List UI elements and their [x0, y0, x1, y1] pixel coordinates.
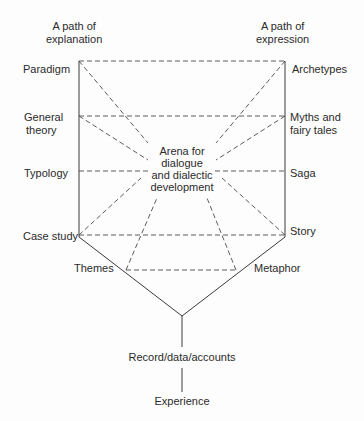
- label-case-study: Case study: [23, 230, 78, 243]
- label-typology: Typology: [24, 167, 68, 180]
- story-arena-link: [222, 178, 285, 235]
- casestudy-arena-link: [79, 178, 141, 235]
- label-metaphor: Metaphor: [254, 262, 300, 275]
- label-archetypes: Archetypes: [292, 63, 347, 76]
- arena-line-2: dialogue: [142, 157, 222, 169]
- right-header-line-2: expression: [256, 33, 309, 46]
- label-myths-fairy-tales: Myths and fairy tales: [290, 111, 341, 137]
- themes-arena-link: [126, 198, 157, 270]
- arena-line-4: development: [142, 181, 222, 193]
- label-saga: Saga: [290, 167, 316, 180]
- left-funnel-line: [79, 237, 182, 316]
- label-experience: Experience: [132, 395, 232, 408]
- label-story: Story: [290, 225, 316, 238]
- arena-label: Arena for dialogue and dialectic develop…: [142, 145, 222, 193]
- left-header-line-1: A path of: [46, 20, 102, 33]
- myths-line-1: Myths and: [290, 111, 341, 124]
- left-path-header: A path of explanation: [46, 20, 102, 46]
- label-record-data-accounts: Record/data/accounts: [122, 351, 242, 364]
- paradigm-arena-link: [79, 61, 148, 143]
- right-header-line-1: A path of: [256, 20, 309, 33]
- label-themes: Themes: [74, 262, 114, 275]
- right-funnel-line: [182, 237, 285, 316]
- arena-line-3: and dialectic: [142, 169, 222, 181]
- general-theory-line-1: General: [24, 111, 63, 124]
- myths-arena-link: [216, 116, 285, 160]
- archetypes-arena-link: [216, 61, 285, 143]
- right-path-header: A path of expression: [256, 20, 309, 46]
- metaphor-arena-link: [207, 198, 236, 270]
- arena-line-1: Arena for: [142, 145, 222, 157]
- theory-arena-link: [79, 116, 148, 160]
- left-header-line-2: explanation: [46, 33, 102, 46]
- myths-line-2: fairy tales: [290, 124, 341, 137]
- diagram-canvas: A path of explanation A path of expressi…: [0, 0, 364, 421]
- label-general-theory: General theory: [24, 111, 63, 137]
- label-paradigm: Paradigm: [23, 63, 70, 76]
- general-theory-line-2: theory: [24, 124, 63, 137]
